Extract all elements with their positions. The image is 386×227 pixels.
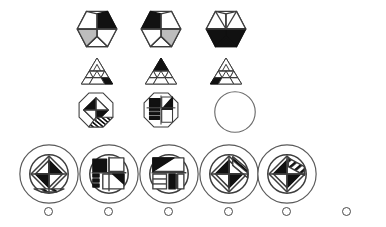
answer-option-1[interactable] [18,143,80,205]
matrix-cell-r1c2 [140,8,182,50]
answer-options: I don’t know [0,143,386,227]
answer-option-5[interactable] [256,143,318,205]
matrix-cell-r1c3 [205,8,247,50]
radio-option-i-dont-know[interactable] [342,207,351,216]
matrix-cell-r3c1 [78,92,114,128]
answer-option-2[interactable] [78,143,140,205]
radio-option-4[interactable] [224,207,233,216]
matrix-cell-r2c1 [80,57,114,85]
matrix-cell-r3c2 [143,92,179,128]
matrix-cell-r1c1 [76,8,118,50]
radio-option-2[interactable] [104,207,113,216]
answer-radio-row [0,207,386,227]
matrix-reasoning-item: I don’t know [0,0,386,227]
matrix-cell-r2c2 [144,57,178,85]
matrix-cell-r2c3 [209,57,243,85]
matrix-cell-r3c3-empty-slot[interactable] [213,90,257,134]
answer-option-3[interactable] [138,143,200,205]
radio-option-3[interactable] [164,207,173,216]
answer-option-4[interactable] [198,143,260,205]
radio-option-1[interactable] [44,207,53,216]
radio-option-5[interactable] [282,207,291,216]
